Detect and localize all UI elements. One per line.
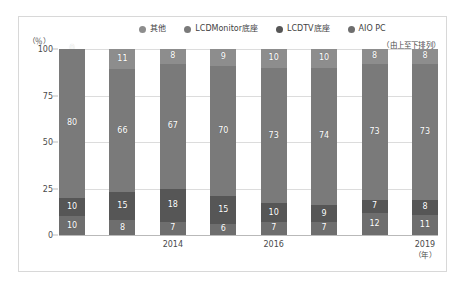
- bar-segment: 11: [109, 49, 135, 69]
- bar-segment-value: 73: [269, 132, 279, 140]
- y-tick-label: 100: [38, 45, 53, 54]
- bar-segment: 8: [160, 49, 186, 64]
- bar-segment: 10: [59, 216, 85, 235]
- bar-segment: 9: [210, 49, 236, 66]
- y-tick-label: 0: [48, 231, 53, 240]
- bar-segment: 73: [261, 68, 287, 204]
- bar-column[interactable]: 867187: [160, 49, 186, 235]
- bar-segment: 70: [210, 66, 236, 196]
- bar-segment: 74: [311, 68, 337, 206]
- legend-item-2[interactable]: LCDTV底座: [276, 25, 330, 33]
- bar-segment-value: 8: [422, 52, 427, 60]
- bar-segment-value: 10: [67, 203, 77, 211]
- bar-column[interactable]: 0801010: [59, 49, 85, 235]
- bar-segment-value: 73: [369, 128, 379, 136]
- bar-segment: 8: [412, 200, 438, 215]
- x-tick-label: [109, 239, 135, 265]
- chart-legend: 其他LCDMonitor底座LCDTV底座AIO PC: [19, 21, 446, 37]
- bar-segment: 9: [311, 205, 337, 222]
- x-tick-label: 2019（年）: [412, 239, 438, 265]
- bar-segment-value: 67: [168, 122, 178, 130]
- y-tick-mark: [53, 142, 58, 143]
- bar-segment-value: 10: [67, 222, 77, 230]
- bar-segment-value: 15: [117, 202, 127, 210]
- bar-segment-value: 74: [319, 132, 329, 140]
- x-tick-label: [362, 239, 388, 265]
- legend-item-label: AIO PC: [359, 25, 386, 33]
- bar-segment: 67: [160, 64, 186, 189]
- y-tick-label: 75: [43, 91, 53, 100]
- legend-swatch-icon: [348, 26, 355, 33]
- y-tick-mark: [53, 235, 58, 236]
- bar-segment: 10: [261, 49, 287, 68]
- bar-segment: 15: [109, 192, 135, 220]
- bar-segment: 8: [362, 49, 388, 64]
- bar-segment-value: 66: [117, 127, 127, 135]
- x-tick-label: [59, 239, 85, 265]
- bar-segment-value: 73: [420, 128, 430, 136]
- legend-item-0[interactable]: 其他: [139, 25, 166, 33]
- stacked-bars: 0801010116615886718797015610731071074978…: [59, 49, 438, 235]
- bar-segment-value: 18: [168, 201, 178, 209]
- bar-column[interactable]: 873811: [412, 49, 438, 235]
- bar-segment: 15: [210, 196, 236, 224]
- bar-column[interactable]: 107497: [311, 49, 337, 235]
- bar-segment-value: 11: [420, 221, 430, 229]
- x-axis-labels: 201420162019（年）: [59, 239, 438, 265]
- y-tick-mark: [53, 49, 58, 50]
- bar-segment: 7: [362, 200, 388, 213]
- bar-column[interactable]: 1073107: [261, 49, 287, 235]
- bar-segment-value: 8: [372, 52, 377, 60]
- bar-column[interactable]: 1166158: [109, 49, 135, 235]
- bar-segment-value: 10: [319, 54, 329, 62]
- legend-item-label: 其他: [150, 25, 166, 33]
- bar-segment: 7: [261, 222, 287, 235]
- bar-segment-value: 12: [369, 220, 379, 228]
- bar-segment-value: 7: [271, 224, 276, 232]
- bar-segment: 6: [210, 224, 236, 235]
- bar-segment-value: 10: [269, 54, 279, 62]
- bar-column[interactable]: 970156: [210, 49, 236, 235]
- bar-segment: 73: [362, 64, 388, 200]
- plot-area: 1007550250 08010101166158867187970156107…: [59, 49, 438, 235]
- bar-segment: 66: [109, 69, 135, 192]
- bar-segment-value: 9: [322, 210, 327, 218]
- bar-segment: 8: [109, 220, 135, 235]
- legend-swatch-icon: [184, 26, 191, 33]
- bar-segment: 10: [311, 49, 337, 68]
- y-tick-mark: [53, 95, 58, 96]
- bar-segment: 73: [412, 64, 438, 200]
- y-tick-label: 25: [43, 184, 53, 193]
- legend-item-3[interactable]: AIO PC: [348, 25, 386, 33]
- chart-card: 其他LCDMonitor底座LCDTV底座AIO PC （％） （由上至下排列）…: [18, 16, 447, 272]
- bar-segment: 10: [59, 198, 85, 217]
- bar-segment-value: 11: [117, 55, 127, 63]
- x-tick-label: 2014: [160, 239, 186, 265]
- legend-item-label: LCDTV底座: [287, 25, 330, 33]
- bar-segment-value: 7: [322, 224, 327, 232]
- bar-segment-value: 9: [221, 53, 226, 61]
- legend-swatch-icon: [276, 26, 283, 33]
- bar-segment: 10: [261, 203, 287, 222]
- bar-column[interactable]: 873712: [362, 49, 388, 235]
- legend-item-label: LCDMonitor底座: [195, 25, 258, 33]
- bar-segment-value: 80: [67, 119, 77, 127]
- y-tick-label: 50: [43, 138, 53, 147]
- x-axis-line: [59, 235, 438, 236]
- bar-segment: 18: [160, 189, 186, 222]
- bar-segment-value: 7: [170, 224, 175, 232]
- bar-segment-value: 8: [120, 224, 125, 232]
- bar-segment-value: 6: [221, 225, 226, 233]
- bar-segment: 8: [412, 49, 438, 64]
- x-tick-label: [311, 239, 337, 265]
- bar-segment: 80: [59, 49, 85, 198]
- y-tick-mark: [53, 188, 58, 189]
- x-axis-unit-label: （年）: [412, 250, 438, 261]
- bar-segment: 7: [311, 222, 337, 235]
- legend-swatch-icon: [139, 26, 146, 33]
- legend-item-1[interactable]: LCDMonitor底座: [184, 25, 258, 33]
- x-tick-label: 2016: [261, 239, 287, 265]
- x-tick-label: [210, 239, 236, 265]
- bar-segment-value: 8: [170, 52, 175, 60]
- bar-segment-value: 10: [269, 209, 279, 217]
